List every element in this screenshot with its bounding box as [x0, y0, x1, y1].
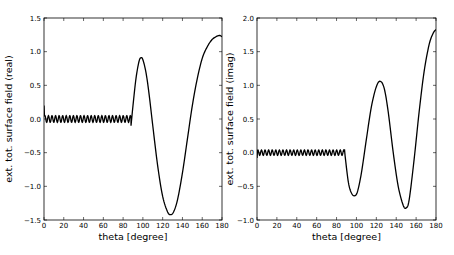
- x-tick-label: 180: [429, 222, 442, 230]
- y-tick-label: 0.0: [243, 149, 254, 157]
- x-axis-label: theta [degree]: [312, 231, 381, 242]
- y-tick-label: −0.5: [237, 183, 254, 191]
- x-tick-label: 40: [292, 222, 301, 230]
- x-tick-label: 20: [272, 222, 281, 230]
- y-tick-label: 0.0: [30, 116, 41, 124]
- data-line-imag: [257, 29, 436, 208]
- figure: 0204060801001201401601801.51.00.50.0−0.5…: [0, 0, 454, 255]
- x-tick-label: 60: [312, 222, 321, 230]
- plot-imag: 0204060801001201401601802.01.51.00.50.0−…: [224, 15, 443, 243]
- x-tick-label: 160: [409, 222, 422, 230]
- y-tick-label: −1.0: [237, 217, 254, 225]
- x-tick-label: 120: [370, 222, 383, 230]
- x-tick-label: 120: [156, 222, 169, 230]
- x-tick-label: 40: [79, 222, 88, 230]
- y-tick-label: −0.5: [24, 149, 41, 157]
- y-axis-label: ext. tot. surface field (real): [3, 55, 14, 182]
- x-tick-label: 140: [176, 222, 189, 230]
- y-tick-label: 1.5: [243, 48, 254, 56]
- data-line-real: [44, 35, 222, 214]
- x-tick-label: 180: [215, 222, 228, 230]
- x-tick-label: 60: [99, 222, 108, 230]
- x-tick-label: 0: [42, 222, 46, 230]
- y-tick-label: −1.5: [24, 217, 41, 225]
- y-axis-label: ext. tot. surface field (imag): [224, 52, 235, 185]
- y-tick-label: 0.5: [30, 82, 41, 90]
- y-tick-label: 1.5: [30, 15, 41, 23]
- x-tick-label: 80: [332, 222, 341, 230]
- plot-real: 0204060801001201401601801.51.00.50.0−0.5…: [3, 15, 229, 243]
- y-tick-label: 2.0: [243, 15, 254, 23]
- x-tick-label: 160: [196, 222, 209, 230]
- y-tick-label: 1.0: [243, 82, 254, 90]
- x-tick-label: 0: [255, 222, 259, 230]
- y-tick-label: 0.5: [243, 116, 254, 124]
- x-axis-label: theta [degree]: [99, 231, 168, 242]
- y-tick-label: 1.0: [30, 48, 41, 56]
- x-tick-label: 80: [119, 222, 128, 230]
- x-tick-label: 140: [390, 222, 403, 230]
- x-tick-label: 100: [350, 222, 363, 230]
- x-tick-label: 20: [59, 222, 68, 230]
- plot-frame: [257, 18, 436, 220]
- y-tick-label: −1.0: [24, 183, 41, 191]
- x-tick-label: 100: [136, 222, 149, 230]
